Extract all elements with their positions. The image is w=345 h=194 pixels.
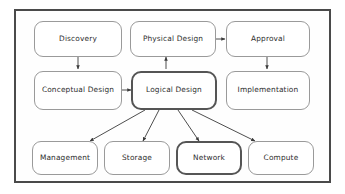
node-storage[interactable]: Storage: [104, 141, 170, 175]
node-approval[interactable]: Approval: [226, 21, 310, 57]
node-label: Management: [40, 154, 90, 162]
node-physical-design[interactable]: Physical Design: [130, 21, 216, 57]
edge-logical-to-compute: [192, 110, 255, 141]
process-flow-diagram: Discovery Physical Design Approval Conce…: [0, 0, 345, 194]
node-label: Conceptual Design: [42, 86, 114, 94]
node-label: Logical Design: [146, 86, 202, 94]
node-network[interactable]: Network: [176, 141, 242, 175]
node-label: Network: [193, 154, 225, 162]
edge-logical-to-storage: [143, 110, 159, 141]
node-conceptual-design[interactable]: Conceptual Design: [34, 71, 122, 110]
node-management[interactable]: Management: [32, 141, 98, 175]
node-implementation[interactable]: Implementation: [226, 71, 310, 110]
node-label: Compute: [264, 154, 299, 162]
node-logical-design[interactable]: Logical Design: [131, 71, 217, 110]
edge-logical-to-network: [178, 110, 199, 141]
node-label: Physical Design: [143, 35, 203, 43]
node-label: Storage: [122, 154, 152, 162]
node-discovery[interactable]: Discovery: [34, 21, 122, 57]
node-label: Discovery: [59, 35, 97, 43]
node-compute[interactable]: Compute: [248, 141, 314, 175]
node-label: Approval: [251, 35, 285, 43]
node-label: Implementation: [238, 86, 299, 94]
edge-logical-to-management: [90, 110, 145, 141]
